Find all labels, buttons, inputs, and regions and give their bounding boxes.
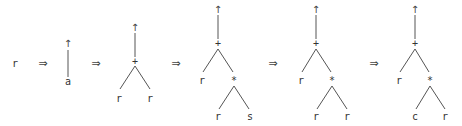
root-arrow-icon: ↑ — [214, 5, 222, 15]
node-s3-plus: + — [215, 39, 221, 49]
derivation-arrow-4: ⇒ — [268, 58, 277, 69]
edge-s3-right — [218, 49, 233, 72]
node-s3-star-left: r — [215, 112, 221, 122]
node-s2-right: r — [147, 94, 153, 104]
edge-s5-right — [415, 49, 429, 72]
derivation-arrow-2: ⇒ — [91, 58, 100, 69]
node-s5-star: * — [427, 76, 433, 86]
edge-s2-right — [135, 66, 150, 89]
root-arrow-icon: ↑ — [312, 5, 320, 15]
derivation-arrow-5: ⇒ — [369, 58, 378, 69]
node-s3-star: * — [231, 76, 237, 86]
tree-edges — [0, 0, 462, 126]
edge-s5-left — [400, 49, 415, 72]
derivation-arrow-3: ⇒ — [171, 58, 180, 69]
edge-s4-star-right — [332, 86, 347, 109]
node-s4-left: r — [298, 76, 304, 86]
edge-s5-star-right — [430, 86, 445, 109]
root-arrow-icon: ↑ — [411, 5, 419, 15]
edge-s5-star-left — [416, 86, 430, 109]
tree-derivation-diagram: r ⇒ ↑ a ⇒ ↑ + r r ⇒ ↑ + r * r s ⇒ ↑ + r … — [0, 0, 462, 126]
edge-s3-left — [203, 49, 218, 72]
edge-s3-star-right — [234, 86, 249, 109]
node-s1-a: a — [65, 77, 71, 87]
edge-s2-left — [120, 66, 135, 89]
node-s5-plus: + — [412, 39, 418, 49]
node-s2-plus: + — [132, 57, 138, 67]
node-s5-left: r — [396, 76, 402, 86]
node-s3-left: r — [199, 76, 205, 86]
node-s4-star: * — [329, 76, 335, 86]
edge-s3-star-left — [219, 86, 234, 109]
node-s4-star-left: r — [313, 112, 319, 122]
node-s2-left: r — [116, 94, 122, 104]
node-s5-star-left: c — [412, 112, 418, 122]
edge-s4-right — [316, 49, 331, 72]
start-symbol: r — [12, 59, 18, 69]
edge-s4-star-left — [317, 86, 332, 109]
node-s5-star-right: r — [442, 112, 448, 122]
root-arrow-icon: ↑ — [64, 39, 72, 49]
derivation-arrow-1: ⇒ — [38, 58, 47, 69]
node-s4-star-right: r — [344, 112, 350, 122]
edge-s4-left — [302, 49, 316, 72]
node-s3-star-right: s — [247, 112, 253, 122]
root-arrow-icon: ↑ — [131, 23, 139, 33]
node-s4-plus: + — [313, 39, 319, 49]
